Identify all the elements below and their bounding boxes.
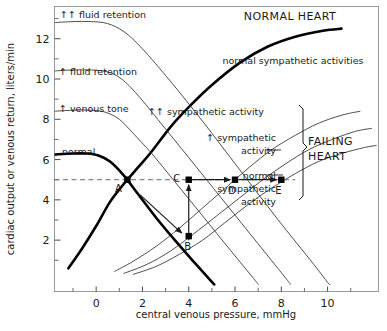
guyton-cardiac-output-venous-return-chart: ABCDE NORMAL HEARTnormal sympathetic act… — [0, 0, 387, 331]
annotation-failing-heart-l1: FAILING — [308, 135, 353, 148]
annotation-normal-sympathetic-activities: normal sympathetic activities — [222, 55, 363, 66]
annotation-normal-sympathetic-l1: normal — [243, 170, 276, 181]
annotation-failing-heart-l2: HEART — [308, 150, 346, 163]
annotation-sympathetic-single-l1: ↑ sympathetic — [206, 132, 276, 143]
y-axis-title: cardiac output or venous return, liters/… — [5, 43, 16, 255]
annotation-normal-heart-title: NORMAL HEART — [244, 10, 336, 23]
annotation-fluid-retention-single: ↑ fluid retention — [59, 66, 137, 77]
annotation-sympathetic-double: ↑↑ sympathetic activity — [148, 106, 264, 117]
data-point-B — [186, 233, 192, 239]
data-point-A — [124, 177, 130, 183]
chart-figure: ABCDE NORMAL HEARTnormal sympathetic act… — [0, 0, 387, 331]
y-tick-label: 8 — [43, 113, 50, 126]
annotation-normal-venous-return: normal — [62, 146, 95, 157]
point-label-A: A — [115, 183, 122, 194]
x-tick-label: 2 — [139, 297, 146, 310]
x-axis-title: central venous pressure, mmHg — [136, 309, 296, 320]
x-tick-label: 10 — [321, 297, 335, 310]
y-tick-label: 4 — [43, 194, 50, 207]
y-tick-label: 6 — [43, 154, 50, 167]
y-tick-label: 12 — [36, 33, 50, 46]
data-point-C — [186, 177, 192, 183]
point-label-B: B — [184, 241, 191, 252]
annotation-fluid-retention-double: ↑↑ fluid retention — [60, 9, 146, 20]
data-point-D — [232, 177, 238, 183]
point-label-E: E — [275, 185, 281, 196]
y-tick-label: 10 — [36, 73, 50, 86]
point-label-C: C — [173, 173, 180, 184]
chart-background — [0, 0, 387, 331]
annotation-sympathetic-single-l2: activity — [241, 145, 276, 156]
x-tick-label: 8 — [278, 297, 285, 310]
annotation-normal-sympathetic-l3: activity — [241, 196, 276, 207]
data-point-E — [278, 177, 284, 183]
y-tick-label: 2 — [43, 234, 50, 247]
x-tick-label: 6 — [232, 297, 239, 310]
x-tick-label: 0 — [93, 297, 100, 310]
annotation-normal-sympathetic-l2: sympathetic — [217, 183, 276, 194]
x-tick-label: 4 — [185, 297, 192, 310]
annotation-venous-tone: ↑ venous tone — [59, 103, 129, 114]
